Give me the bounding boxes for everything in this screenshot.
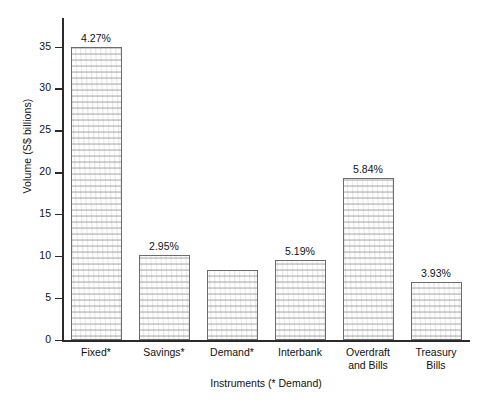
x-axis-category-label: TreasuryBills <box>402 346 470 371</box>
category-label-line: Treasury <box>402 346 470 359</box>
bar-value-label: 2.95% <box>149 240 179 253</box>
y-axis-tick: 10 <box>55 256 62 257</box>
category-label-line: Overdraft <box>334 346 402 359</box>
y-axis-tick: 35 <box>55 47 62 48</box>
y-axis-tick-label: 20 <box>39 165 51 178</box>
category-label-line: Fixed* <box>81 346 111 358</box>
bar-chart: Volume (S$ billions) 05101520253035 4.27… <box>0 0 478 400</box>
bar-value-label: 3.93% <box>421 267 451 280</box>
y-axis-tick-label: 15 <box>39 207 51 220</box>
bar: 5.19% <box>275 260 326 340</box>
y-axis-tick: 25 <box>55 130 62 131</box>
x-axis-category-label: Fixed* <box>62 346 130 359</box>
y-axis-tick: 5 <box>55 298 62 299</box>
bar: 3.93% <box>411 282 462 341</box>
x-axis-title: Instruments (* Demand) <box>62 377 470 389</box>
y-axis-line <box>62 18 64 342</box>
x-axis-category-label: Demand* <box>198 346 266 359</box>
category-label-line: and Bills <box>334 359 402 372</box>
y-axis-tick-label: 25 <box>39 123 51 136</box>
x-axis-category-label: Savings* <box>130 346 198 359</box>
x-axis-category-label: Overdraftand Bills <box>334 346 402 371</box>
category-label-line: Bills <box>402 359 470 372</box>
bar-value-label: 5.19% <box>285 245 315 258</box>
y-axis-tick: 0 <box>55 340 62 341</box>
category-label-line: Savings* <box>143 346 184 358</box>
bar <box>207 270 258 340</box>
y-axis-tick: 15 <box>55 214 62 215</box>
y-axis-tick-label: 5 <box>45 291 51 304</box>
bar: 4.27% <box>71 47 122 340</box>
y-axis-tick: 20 <box>55 172 62 173</box>
plot-area: 05101520253035 4.27%2.95%5.19%5.84%3.93% <box>62 18 470 342</box>
x-axis-line <box>62 340 470 342</box>
bar: 5.84% <box>343 178 394 340</box>
category-label-line: Interbank <box>278 346 322 358</box>
x-axis-category-label: Interbank <box>266 346 334 359</box>
bar-value-label: 5.84% <box>353 163 383 176</box>
y-axis-tick-label: 0 <box>45 333 51 346</box>
category-label-line: Demand* <box>210 346 254 358</box>
y-axis-tick-label: 10 <box>39 249 51 262</box>
y-axis-tick-label: 30 <box>39 81 51 94</box>
y-axis-tick: 30 <box>55 88 62 89</box>
bar-value-label: 4.27% <box>81 32 111 45</box>
y-axis-tick-label: 35 <box>39 40 51 53</box>
y-axis-title: Volume (S$ billions) <box>21 51 33 241</box>
bar: 2.95% <box>139 255 190 340</box>
